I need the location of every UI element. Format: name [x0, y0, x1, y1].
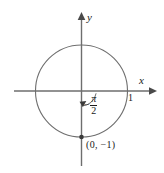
- angle-label: − π 2: [84, 94, 97, 116]
- angle-fraction: π 2: [90, 94, 97, 116]
- terminal-point-label: (0, −1): [86, 140, 115, 150]
- angle-minus-sign: −: [84, 100, 90, 110]
- x-axis-label: x: [139, 75, 144, 86]
- y-axis-label: y: [87, 12, 92, 23]
- angle-denominator: 2: [91, 106, 96, 117]
- x-axis-arrowhead: [149, 87, 157, 95]
- x-tick-label-one: 1: [128, 93, 133, 103]
- unit-circle-figure: y x 1 − π 2 (0, −1): [0, 0, 164, 173]
- terminal-point-marker: [79, 135, 84, 140]
- y-axis-arrowhead: [78, 12, 86, 20]
- angle-numerator: π: [90, 94, 97, 105]
- figure-canvas: [0, 0, 164, 173]
